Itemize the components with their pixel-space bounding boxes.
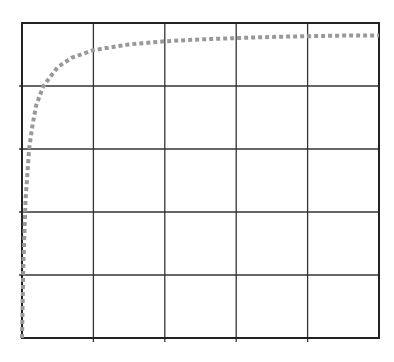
plot-frame [22,23,379,338]
chart-area [0,0,394,362]
grid-lines [19,23,379,342]
data-series-curve [22,36,379,338]
